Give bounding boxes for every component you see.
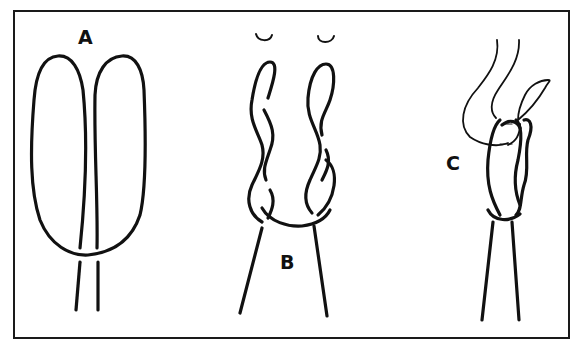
panel-a-loops — [32, 56, 146, 310]
panel-label-b: B — [280, 251, 294, 273]
panel-b-twisted-loops — [240, 34, 334, 316]
knot-diagram — [0, 0, 582, 349]
panel-label-c: C — [446, 152, 460, 174]
panel-label-a: A — [78, 26, 93, 48]
panel-c-hook-and-loops — [463, 40, 550, 320]
